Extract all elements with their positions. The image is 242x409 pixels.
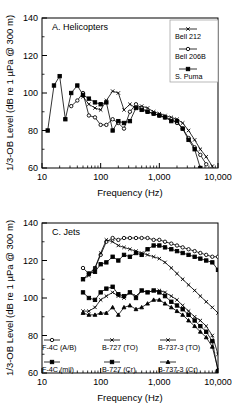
marker-square: [175, 119, 178, 122]
y-tick-label: 80: [28, 126, 38, 136]
marker-square: [216, 268, 219, 271]
marker-square: [111, 285, 114, 288]
marker-square: [205, 330, 208, 333]
marker-square: [87, 97, 90, 100]
marker-triangle: [122, 305, 126, 308]
legend-label: B-727 (TO): [102, 343, 138, 352]
marker-circle: [205, 163, 208, 166]
marker-square: [193, 319, 196, 322]
marker-circle: [105, 123, 108, 126]
marker-circle: [205, 253, 208, 256]
marker-circle: [175, 244, 178, 247]
marker-triangle: [140, 305, 144, 308]
marker-square: [99, 291, 102, 294]
marker-circle: [152, 238, 155, 241]
marker-triangle: [216, 367, 220, 370]
marker-square: [211, 261, 214, 264]
marker-square: [187, 138, 190, 141]
legend-label: Bell 212: [175, 32, 201, 41]
marker-triangle: [81, 311, 85, 314]
marker-triangle: [111, 305, 115, 308]
marker-circle: [186, 47, 189, 50]
marker-circle: [99, 123, 102, 126]
marker-triangle: [87, 313, 91, 316]
marker-circle: [111, 236, 114, 239]
series-layer: [46, 74, 214, 169]
y-tick-label: 60: [28, 368, 38, 378]
y-axis-title: 1/3-OB Level (dB re 1 µPa @ 300 m): [4, 15, 15, 171]
marker-circle: [187, 248, 190, 251]
marker-square: [93, 101, 96, 104]
marker-square: [105, 287, 108, 290]
x-axis-title: Frequency (Hz): [97, 392, 162, 403]
legend-label: B-727 (Cr): [102, 365, 136, 374]
marker-square: [146, 110, 149, 113]
legend-label: B-737-3 (TO): [158, 343, 200, 352]
legend-label: F-4C (mil): [42, 365, 74, 374]
marker-triangle: [175, 309, 179, 312]
y-tick-label: 80: [28, 331, 38, 341]
legend-label: B-737-3 (Cr): [158, 365, 198, 374]
marker-square: [50, 360, 53, 363]
x-tick-label: 1,000: [148, 377, 171, 387]
marker-square: [52, 84, 55, 87]
marker-square: [105, 101, 108, 104]
marker-circle: [181, 246, 184, 249]
marker-triangle: [134, 307, 138, 310]
marker-triangle: [157, 298, 161, 301]
marker-circle: [158, 238, 161, 241]
marker-circle: [76, 99, 79, 102]
legend-label: S. Puma: [175, 72, 203, 81]
marker-triangle: [166, 360, 170, 363]
marker-circle: [163, 240, 166, 243]
marker-circle: [93, 116, 96, 119]
marker-square: [93, 270, 96, 273]
marker-square: [122, 121, 125, 124]
panel-helicopters: 101001,00010,0006080100120140Frequency (…: [0, 0, 242, 204]
marker-square: [170, 300, 173, 303]
marker-square: [122, 253, 125, 256]
x-tick-label: 10,000: [204, 377, 232, 387]
marker-square: [46, 129, 49, 132]
panel-c-plot: 101001,00010,0006080100120140Frequency (…: [0, 205, 242, 409]
marker-square: [111, 129, 114, 132]
marker-circle: [134, 236, 137, 239]
marker-square: [81, 93, 84, 96]
marker-square: [76, 84, 79, 87]
marker-square: [170, 248, 173, 251]
marker-triangle: [152, 298, 156, 301]
marker-circle: [122, 236, 125, 239]
y-tick-label: 120: [23, 51, 38, 61]
marker-square: [163, 246, 166, 249]
marker-square: [105, 261, 108, 264]
marker-square: [146, 248, 149, 251]
marker-square: [64, 118, 67, 121]
series-s-puma: [46, 74, 202, 169]
panel-title: A. Helicopters: [52, 22, 109, 32]
marker-triangle: [169, 305, 173, 308]
marker-circle: [50, 338, 53, 341]
marker-square: [186, 67, 189, 70]
marker-square: [175, 249, 178, 252]
marker-circle: [134, 103, 137, 106]
marker-square: [87, 296, 90, 299]
marker-square: [158, 114, 161, 117]
y-tick-label: 100: [23, 293, 38, 303]
marker-square: [187, 253, 190, 256]
marker-square: [117, 259, 120, 262]
x-tick-label: 10,000: [204, 172, 232, 182]
marker-square: [152, 112, 155, 115]
chart-c-svg: 101001,00010,0006080100120140Frequency (…: [0, 205, 242, 409]
marker-square: [58, 74, 61, 77]
marker-triangle: [181, 313, 185, 316]
chart-a-content: 101001,00010,0006080100120140Frequency (…: [4, 13, 232, 198]
series-line: [71, 93, 206, 164]
marker-circle: [70, 104, 73, 107]
y-tick-label: 140: [23, 218, 38, 228]
marker-square: [205, 259, 208, 262]
panel-title: C. Jets: [52, 227, 81, 237]
x-axis-title: Frequency (Hz): [97, 187, 162, 198]
marker-square: [175, 304, 178, 307]
y-tick-label: 100: [23, 88, 38, 98]
x-tick-label: 100: [93, 377, 108, 387]
